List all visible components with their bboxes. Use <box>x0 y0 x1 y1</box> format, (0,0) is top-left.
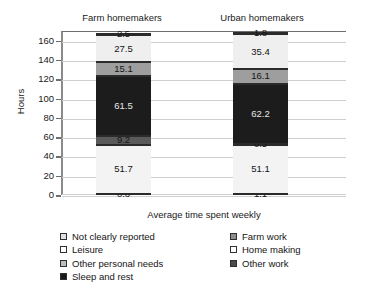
chart-column-title-farm: Farm homemakers <box>62 12 182 23</box>
y-tick-mark-120 <box>56 79 61 81</box>
legend-item-label: Other work <box>242 259 288 269</box>
y-tick-mark-160 <box>56 41 61 43</box>
legend-item-sleep-and-rest[interactable]: Sleep and rest <box>60 271 163 284</box>
legend-swatch-icon <box>230 233 237 240</box>
legend-swatch-icon <box>60 233 67 240</box>
y-tick-label-80: 80 <box>43 113 54 123</box>
bar-segment-value: 61.5 <box>96 101 151 111</box>
bar-segment-value: 27.5 <box>96 44 151 54</box>
legend-item-not-clearly-reported[interactable]: Not clearly reported <box>60 230 163 243</box>
legend-item-label: Leisure <box>72 245 103 255</box>
legend-item-leisure[interactable]: Leisure <box>60 244 163 257</box>
bar-segment-urban-leisure[interactable]: 35.4 <box>233 34 288 68</box>
y-tick-label-120: 120 <box>38 74 54 84</box>
bar-segment-farm-not-clearly-reported[interactable]: 61.5 <box>96 76 151 135</box>
y-tick-label-20: 20 <box>43 171 54 181</box>
y-tick-mark-20 <box>56 176 61 178</box>
chart-column-title-urban: Urban homemakers <box>202 12 322 23</box>
legend-swatch-icon <box>60 260 67 267</box>
bar-segment-value: 2.5 <box>96 29 151 39</box>
plot-area: 0.651.79.261.515.127.52.5 1.151.10.562.2… <box>62 31 346 195</box>
bar-segment-value: 16.1 <box>233 72 288 82</box>
legend-item-farm-work[interactable]: Farm work <box>230 230 301 243</box>
legend-swatch-icon <box>230 260 237 267</box>
bar-segment-urban-farm-work[interactable]: 16.1 <box>233 69 288 85</box>
bar-segment-value: 1.8 <box>233 29 288 39</box>
chart-figure: Farm homemakers Urban homemakers Hours 0… <box>0 0 369 293</box>
legend-swatch-icon <box>60 246 67 253</box>
legend-item-label: Other personal needs <box>72 259 163 269</box>
y-tick-mark-100 <box>56 99 61 101</box>
bar-segment-urban-sleep-and-rest[interactable]: 51.1 <box>233 145 288 194</box>
y-tick-mark-0 <box>56 195 61 197</box>
legend-item-label: Not clearly reported <box>72 232 155 242</box>
bar-segment-urban-not-clearly-reported[interactable]: 62.2 <box>233 84 288 144</box>
legend-item-label: Sleep and rest <box>72 272 133 282</box>
y-tick-label-0: 0 <box>49 190 54 200</box>
y-tick-label-40: 40 <box>43 151 54 161</box>
legend-item-other-work[interactable]: Other work <box>230 257 301 270</box>
legend-item-other-personal-needs[interactable]: Other personal needs <box>60 257 163 270</box>
y-tick-label-60: 60 <box>43 132 54 142</box>
bar-segment-value: 35.4 <box>233 47 288 57</box>
legend-swatch-icon <box>60 273 67 280</box>
legend-swatch-icon <box>230 246 237 253</box>
legend-item-home-making[interactable]: Home making <box>230 244 301 257</box>
bar-segment-urban-other-personal-needs[interactable]: 1.8 <box>233 32 288 34</box>
legend-item-label: Home making <box>242 245 301 255</box>
bar-segment-farm-other-personal-needs[interactable]: 2.5 <box>96 33 151 35</box>
bar-segment-farm-sleep-and-rest[interactable]: 51.7 <box>96 145 151 195</box>
bar-segment-farm-farm-work[interactable]: 15.1 <box>96 62 151 77</box>
y-tick-mark-140 <box>56 60 61 62</box>
bar-segment-value: 15.1 <box>96 64 151 74</box>
legend-item-label: Farm work <box>242 232 287 242</box>
bar-segment-value: 62.2 <box>233 109 288 119</box>
bar-segment-farm-other-work[interactable]: 9.2 <box>96 136 151 145</box>
legend-column-right: Farm workHome makingOther work <box>230 230 301 271</box>
y-tick-mark-80 <box>56 118 61 120</box>
y-tick-label-140: 140 <box>38 55 54 65</box>
bar-segment-value: 51.1 <box>233 165 288 175</box>
bar-segment-value: 9.2 <box>96 135 151 145</box>
y-tick-mark-40 <box>56 156 61 158</box>
y-axis-label: Hours <box>15 72 26 132</box>
y-tick-mark-60 <box>56 137 61 139</box>
legend-column-left: Not clearly reportedLeisureOther persona… <box>60 230 163 284</box>
chart-legend: Not clearly reportedLeisureOther persona… <box>60 230 360 288</box>
x-axis-label: Average time spent weekly <box>62 209 346 220</box>
y-tick-label-160: 160 <box>38 36 54 46</box>
y-tick-label-100: 100 <box>38 94 54 104</box>
bar-segment-value: 51.7 <box>96 165 151 175</box>
